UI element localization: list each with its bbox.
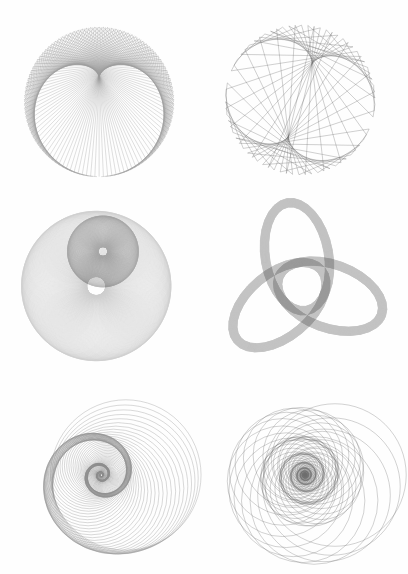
- ellipse-ring-2: [251, 192, 342, 321]
- trefoil-ellipse-rings: [204, 192, 408, 380]
- chord-envelope-group: [24, 27, 174, 177]
- nested-limacon-rings: [0, 192, 204, 380]
- figure-panel-cardioid-envelope: [0, 4, 204, 192]
- figure-panel-dense-spiral-circles: [204, 380, 408, 574]
- chord-envelope-group: [225, 25, 375, 175]
- spiral-circle-group: [227, 404, 406, 565]
- figure-panel-deltoid-envelope: [204, 4, 408, 192]
- figure-panel-logarithmic-spiral-circles: [0, 380, 204, 574]
- spiral-circle-group: [43, 400, 201, 554]
- cardioid-envelope: [0, 4, 204, 192]
- figure-panel-nested-limacon-rings: [0, 192, 204, 380]
- logarithmic-spiral-circles: [0, 380, 204, 574]
- dense-spiral-circles: [204, 380, 408, 574]
- deltoid-envelope: [204, 4, 408, 192]
- figure-panel-trefoil-ellipse-rings: [204, 192, 408, 380]
- circle-family-inner-ring: [67, 216, 138, 287]
- figure-plate: [0, 0, 408, 574]
